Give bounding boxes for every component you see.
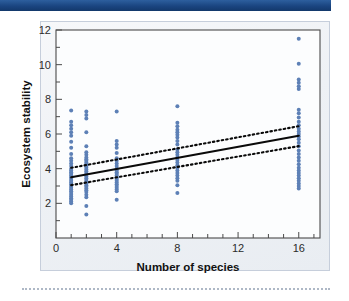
data-point — [69, 152, 73, 156]
data-point — [175, 135, 179, 139]
y-tick-label: 8 — [45, 93, 51, 105]
data-point — [297, 111, 301, 115]
data-point — [297, 187, 301, 191]
data-point — [297, 159, 301, 163]
x-tick-label: 12 — [232, 242, 244, 254]
data-point — [297, 108, 301, 112]
data-point — [69, 201, 73, 205]
data-point — [297, 148, 301, 152]
data-point — [297, 141, 301, 145]
data-point — [297, 87, 301, 91]
data-point — [175, 104, 179, 108]
data-point — [84, 204, 88, 208]
data-point — [115, 142, 119, 146]
data-point — [175, 121, 179, 125]
data-point — [115, 198, 119, 202]
y-axis-title: Ecosystem stability — [20, 80, 32, 188]
data-point — [175, 191, 179, 195]
data-point — [175, 183, 179, 187]
data-point — [297, 155, 301, 159]
x-tick-label: 8 — [174, 242, 180, 254]
data-point — [69, 146, 73, 150]
data-point — [175, 124, 179, 128]
data-point — [69, 130, 73, 134]
data-point — [69, 127, 73, 131]
data-point — [69, 120, 73, 124]
data-point — [175, 142, 179, 146]
plot-background — [56, 30, 320, 238]
bottom-dotted-rule — [22, 288, 330, 290]
x-tick-label: 4 — [114, 242, 120, 254]
y-tick-label: 4 — [45, 163, 51, 175]
data-point — [115, 109, 119, 113]
data-point — [115, 146, 119, 150]
data-point — [84, 130, 88, 134]
scatter-plot-container: 048121624681012Number of speciesEcosyste… — [0, 0, 349, 301]
data-point — [297, 77, 301, 81]
data-point — [297, 37, 301, 41]
data-point — [297, 120, 301, 124]
data-point — [69, 123, 73, 127]
scatter-chart: 048121624681012Number of speciesEcosyste… — [0, 0, 349, 301]
data-point — [84, 116, 88, 120]
data-point — [115, 151, 119, 155]
data-point — [297, 62, 301, 66]
y-tick-label: 2 — [45, 197, 51, 209]
data-point — [69, 109, 73, 113]
data-point — [69, 140, 73, 144]
x-tick-label: 16 — [293, 242, 305, 254]
y-tick-label: 10 — [39, 59, 51, 71]
data-point — [297, 81, 301, 85]
data-point — [115, 139, 119, 143]
data-point — [175, 179, 179, 183]
data-point — [84, 113, 88, 117]
data-point — [69, 134, 73, 138]
data-point — [115, 189, 119, 193]
data-point — [297, 137, 301, 141]
data-point — [175, 139, 179, 143]
x-tick-label: 0 — [53, 242, 59, 254]
data-point — [297, 152, 301, 156]
data-point — [84, 109, 88, 113]
data-point — [297, 162, 301, 166]
data-point — [84, 213, 88, 217]
data-point — [84, 144, 88, 148]
y-tick-label: 6 — [45, 128, 51, 140]
data-point — [84, 195, 88, 199]
x-axis-title: Number of species — [137, 261, 240, 273]
y-tick-label: 12 — [39, 24, 51, 36]
data-point — [297, 116, 301, 120]
